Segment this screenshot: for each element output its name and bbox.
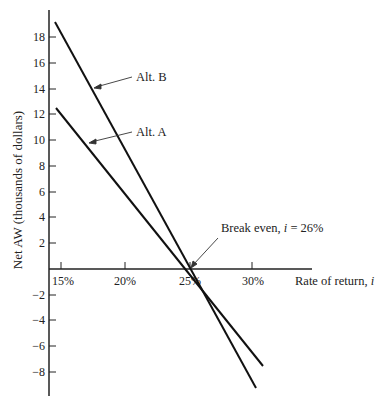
- y-tick-label: −8: [32, 365, 45, 379]
- y-tick-label: −4: [32, 313, 45, 327]
- series-alt-a: [56, 108, 263, 366]
- label-alt-a: Alt. A: [136, 125, 167, 139]
- x-ticks: [61, 262, 252, 269]
- x-axis-label: Rate of return, i: [295, 274, 375, 288]
- label-break-even: Break even, i = 26%: [221, 221, 324, 235]
- y-tick-label: 8: [39, 159, 45, 173]
- y-tick-label: 12: [33, 107, 45, 121]
- y-tick-label: 4: [39, 210, 45, 224]
- y-tick-label: −2: [32, 288, 45, 302]
- x-tick-labels: 15% 20% 25% 30%: [52, 274, 264, 288]
- y-tick-labels: 18 16 14 12 10 8 6 4 2 −2 −4 −6 −8: [32, 30, 45, 379]
- y-tick-label: 6: [39, 185, 45, 199]
- x-tick-label: 20%: [114, 274, 136, 288]
- y-tick-label: 2: [39, 236, 45, 250]
- y-tick-label: 16: [33, 56, 45, 70]
- y-tick-label: 18: [33, 30, 45, 44]
- y-tick-label: 14: [33, 82, 45, 96]
- label-alt-b: Alt. B: [136, 70, 167, 84]
- y-tick-label: 10: [33, 133, 45, 147]
- y-tick-label: −6: [32, 339, 45, 353]
- break-even-chart: 18 16 14 12 10 8 6 4 2 −2 −4 −6 −8 Net A…: [0, 0, 380, 406]
- x-tick-label: 30%: [242, 274, 264, 288]
- y-axis-label: Net AW (thousands of dollars): [10, 111, 25, 269]
- y-ticks: [49, 37, 56, 372]
- x-tick-label: 15%: [52, 274, 74, 288]
